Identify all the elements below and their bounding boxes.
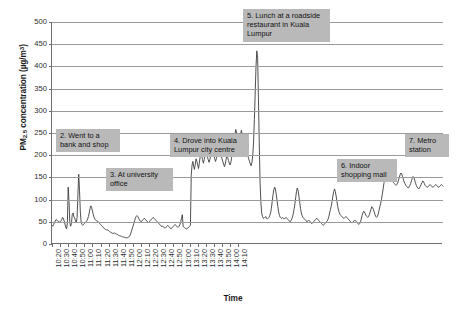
x-axis-tick-mark (92, 243, 93, 247)
x-axis-tick-mark (182, 243, 183, 247)
y-axis-tick-mark (49, 66, 52, 67)
x-axis-tick-mark (117, 243, 118, 247)
x-axis-tick-label: 13:10 (193, 249, 200, 268)
x-axis-tick-label: 13:20 (201, 249, 208, 268)
y-axis-tick-mark (49, 155, 52, 156)
x-axis-tick-mark (173, 243, 174, 247)
x-axis-tick-label: 11:30 (112, 249, 119, 267)
y-axis-tick-mark (49, 44, 52, 45)
x-axis-tick-mark (84, 243, 85, 247)
y-axis-tick-mark (49, 222, 52, 223)
y-axis-tick-label: 0 (43, 240, 47, 248)
chart-annotation-4: 5. Lunch at a roadside restaurant in Kua… (243, 9, 330, 42)
x-axis-tick-label: 12:50 (176, 249, 183, 268)
gridline (52, 66, 443, 67)
y-axis-tick-label: 250 (34, 129, 47, 137)
gridline (52, 111, 443, 112)
x-axis-tick-label: 13:00 (185, 249, 192, 268)
y-axis-title-prefix: PM (18, 138, 28, 150)
chart-annotation-5: 6. Indoor shopping mall (337, 159, 397, 182)
x-axis-tick-mark (157, 243, 158, 247)
x-axis-title: Time (0, 293, 466, 303)
y-axis-tick-mark (49, 133, 52, 134)
x-axis-tick-mark (190, 243, 191, 247)
x-axis-tick-mark (125, 243, 126, 247)
x-axis-tick-label: 11:10 (95, 249, 102, 267)
y-axis-title-mid: concentration (µg/m (18, 50, 28, 130)
y-axis-title-subscript: 2.5 (21, 130, 28, 138)
x-axis-tick-label: 11:20 (104, 249, 111, 267)
x-axis-tick-mark (52, 243, 53, 247)
chart-annotation-6: 7. Metro station (405, 134, 449, 157)
chart-annotation-3: 4. Drove into Kuala Lumpur city centre (170, 134, 249, 157)
y-axis-tick-mark (49, 111, 52, 112)
y-axis-tick-mark (49, 22, 52, 23)
y-axis-title-superscript: 3 (18, 47, 25, 50)
y-axis-title: PM2.5 concentration (µg/m3) (18, 12, 29, 182)
chart-annotation-1: 2. Went to a bank and shop (56, 129, 120, 152)
x-axis-tick-mark (198, 243, 199, 247)
x-axis-tick-mark (149, 243, 150, 247)
y-axis-tick-label: 300 (34, 107, 47, 115)
y-axis-tick-label: 200 (34, 151, 47, 159)
x-axis-tick-mark (222, 243, 223, 247)
x-axis-tick-mark (101, 243, 102, 247)
y-axis-title-suffix: ) (18, 44, 28, 47)
y-axis-tick-label: 350 (34, 85, 47, 93)
x-axis-tick-mark (165, 243, 166, 247)
x-axis-tick-mark (141, 243, 142, 247)
y-axis-tick-label: 500 (34, 18, 47, 26)
y-axis-tick-label: 50 (39, 218, 47, 226)
y-axis-tick-label: 100 (34, 196, 47, 204)
x-axis-tick-mark (76, 243, 77, 247)
y-axis-tick-label: 150 (34, 174, 47, 182)
y-axis-tick-mark (49, 177, 52, 178)
x-axis-tick-mark (238, 243, 239, 247)
x-axis-tick-mark (109, 243, 110, 247)
x-axis-tick-mark (133, 243, 134, 247)
y-axis-tick-mark (49, 89, 52, 90)
x-axis-tick-mark (60, 243, 61, 247)
gridline (52, 222, 443, 223)
x-axis-tick-mark (68, 243, 69, 247)
pm25-timeseries-chart: PM2.5 concentration (µg/m3) 050100150200… (0, 0, 466, 311)
gridline (52, 44, 443, 45)
x-axis-tick-mark (230, 243, 231, 247)
x-axis-tick-label: 14:10 (241, 249, 248, 268)
gridline (52, 89, 443, 90)
y-axis-tick-label: 450 (34, 40, 47, 48)
gridline (52, 200, 443, 201)
x-axis-tick-mark (206, 243, 207, 247)
x-axis-tick-mark (214, 243, 215, 247)
chart-annotation-2: 3. At university office (106, 168, 173, 191)
y-axis-tick-label: 400 (34, 63, 47, 71)
y-axis-tick-mark (49, 200, 52, 201)
